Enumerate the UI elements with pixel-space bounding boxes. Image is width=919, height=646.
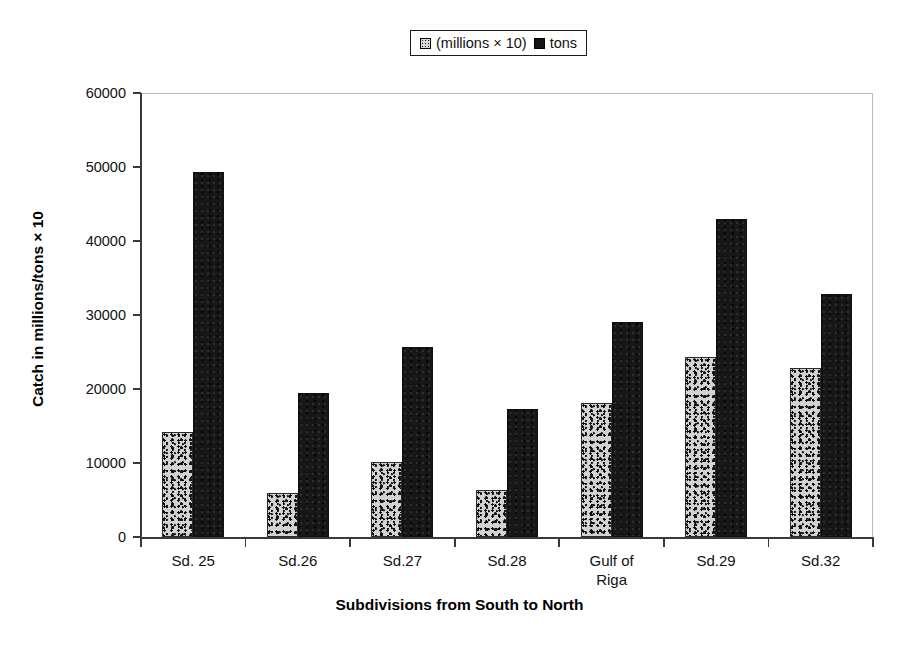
bar-tons-4 [612, 322, 643, 537]
y-axis-tick-label-text: 60000 [60, 86, 126, 101]
x-axis-tick-mark [245, 538, 247, 547]
legend-swatch-tons-icon [534, 38, 545, 49]
y-axis-tick-label: 60000 [60, 86, 126, 100]
bar-millions-6 [790, 368, 821, 537]
x-axis-tick-mark [454, 538, 456, 547]
x-axis-tick-mark [558, 538, 560, 547]
x-axis-category-label: Sd.28 [455, 551, 560, 570]
x-axis-category-label: Gulf of Riga [559, 551, 664, 589]
y-axis-tick-mark [133, 462, 141, 464]
y-axis-tick-label-text: 50000 [60, 160, 126, 175]
legend-entry-millions: (millions × 10) [420, 36, 527, 51]
chart-legend: (millions × 10) tons [410, 30, 587, 56]
y-axis-tick-label-text: 40000 [60, 234, 126, 249]
y-axis-tick-mark [133, 240, 141, 242]
bar-millions-4 [581, 403, 612, 537]
bar-millions-5 [685, 357, 716, 537]
y-axis-tick-label: 40000 [60, 234, 126, 248]
y-axis-tick-label: 10000 [60, 456, 126, 470]
x-axis-tick-mark [349, 538, 351, 547]
y-axis-tick-label: 20000 [60, 382, 126, 396]
x-axis-tick-mark [140, 538, 142, 547]
x-axis-tick-mark [663, 538, 665, 547]
bar-millions-3 [476, 490, 507, 537]
y-axis-tick-label-text: 10000 [60, 456, 126, 471]
legend-label-millions: (millions × 10) [436, 36, 527, 51]
bar-millions-1 [267, 493, 298, 537]
y-axis-title: Catch in millions/tons × 10 [29, 179, 47, 439]
x-axis-tick-mark [768, 538, 770, 547]
x-axis-tick-mark [872, 538, 874, 547]
bar-chart: (millions × 10) tons 0100002000030000400… [0, 0, 919, 646]
y-axis-tick-mark [133, 92, 141, 94]
y-axis-tick-mark [133, 166, 141, 168]
y-axis-tick-label-text: 0 [60, 530, 126, 545]
bar-tons-5 [716, 219, 747, 537]
y-axis-tick-label: 30000 [60, 308, 126, 322]
legend-label-tons: tons [550, 36, 577, 51]
bar-tons-3 [507, 409, 538, 537]
x-axis-category-label: Sd.29 [664, 551, 769, 570]
bar-tons-6 [821, 294, 852, 537]
x-axis-category-label: Sd.27 [350, 551, 455, 570]
bar-millions-0 [162, 432, 193, 537]
y-axis-tick-label: 50000 [60, 160, 126, 174]
y-axis-tick-mark [133, 314, 141, 316]
y-axis-tick-label: 0 [60, 530, 126, 544]
x-axis-category-label: Sd.32 [768, 551, 873, 570]
legend-swatch-millions-icon [420, 38, 431, 49]
bar-tons-0 [193, 172, 224, 537]
y-axis-line [140, 93, 142, 539]
x-axis-title: Subdivisions from South to North [0, 596, 919, 614]
legend-entry-tons: tons [534, 36, 577, 51]
y-axis-tick-label-text: 30000 [60, 308, 126, 323]
x-axis-line [140, 537, 874, 539]
y-axis-tick-mark [133, 388, 141, 390]
x-axis-category-label: Sd. 25 [141, 551, 246, 570]
bar-tons-2 [402, 347, 433, 537]
y-axis-tick-label-text: 20000 [60, 382, 126, 397]
bar-tons-1 [298, 393, 329, 537]
x-axis-category-label: Sd.26 [246, 551, 351, 570]
bar-millions-2 [371, 462, 402, 537]
